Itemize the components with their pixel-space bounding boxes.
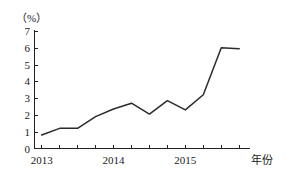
y-axis-tick-label: 0	[25, 143, 31, 155]
x-axis-name-label: 年份	[251, 153, 273, 166]
y-axis-tick-label: 7	[25, 25, 31, 37]
y-axis-tick-label: 4	[25, 75, 31, 87]
x-axis-tick-label: 2015	[174, 154, 197, 166]
y-axis-tick-label: 5	[25, 59, 31, 71]
data-series-line	[42, 48, 240, 135]
x-axis-tick-marks	[42, 145, 240, 149]
chart-canvas: （%） 01234567 201320142015 年份	[0, 0, 286, 176]
y-axis-tick-label: 1	[25, 126, 31, 138]
x-axis-tick-label: 2013	[31, 154, 54, 166]
x-axis-tick-labels: 201320142015	[31, 154, 197, 166]
y-axis-tick-label: 2	[25, 109, 31, 121]
line-chart: （%） 01234567 201320142015 年份	[0, 0, 286, 176]
y-axis-unit-label: （%）	[16, 12, 47, 24]
x-axis-tick-label: 2014	[103, 154, 126, 166]
y-axis-tick-label: 3	[25, 92, 31, 104]
y-axis-unit-label-group: （%）	[16, 12, 47, 24]
y-axis-tick-label: 6	[25, 42, 31, 54]
y-axis-tick-labels: 01234567	[25, 25, 31, 155]
